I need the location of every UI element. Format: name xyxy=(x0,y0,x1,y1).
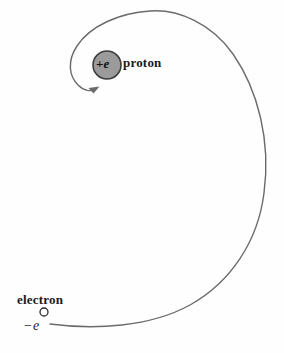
electron-label: electron xyxy=(17,293,63,306)
electron-charge-sign: − xyxy=(24,318,33,333)
electron-circle xyxy=(40,308,48,316)
electron-charge-label: −e xyxy=(24,319,39,333)
proton-label: proton xyxy=(123,56,162,69)
proton-charge-symbol: e xyxy=(103,56,109,71)
proton-charge-label: +e xyxy=(96,57,109,70)
electron-charge-symbol: e xyxy=(33,318,39,333)
figure-canvas: +e proton electron −e xyxy=(0,0,284,353)
